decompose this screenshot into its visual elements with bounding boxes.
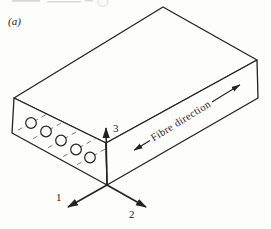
fibre-cross-section-circle: [56, 135, 67, 146]
cropped-text-remnant: [12, 0, 108, 7]
axis-2-arrow: [107, 185, 146, 207]
fibre-cross-section-circle: [26, 118, 37, 129]
axis-1-arrow: [68, 185, 107, 207]
axis-1-label: 1: [56, 191, 62, 203]
fibre-cross-section-circle: [71, 144, 82, 155]
fibre-cross-section-circle: [41, 126, 52, 137]
fibre-cross-section-circle: [85, 152, 96, 163]
axis-2-label: 2: [129, 208, 135, 220]
axis-3-arrow: [106, 128, 107, 185]
composite-block-diagram: Fibre direction (a) 3 1 2: [0, 0, 271, 229]
figure-panel: Fibre direction (a) 3 1 2: [0, 0, 271, 229]
axis-3-label: 3: [113, 122, 119, 134]
panel-label: (a): [8, 15, 21, 28]
